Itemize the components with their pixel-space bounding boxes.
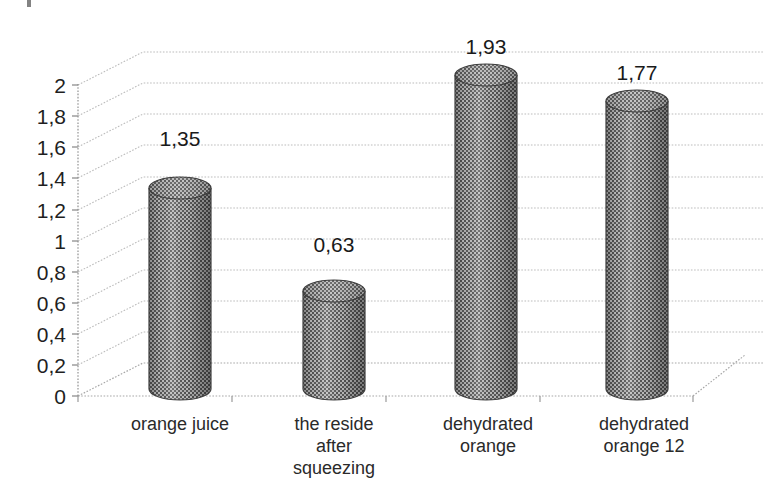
value-axis (72, 84, 78, 397)
ytick-label-1-8: 1,8 (8, 106, 66, 127)
category-label-dehydrated-orange: dehydrated orange (403, 413, 573, 457)
ytick-label-0-2: 0,2 (8, 355, 66, 376)
value-label-reside: 0,63 (294, 234, 374, 255)
value-label-orange-juice: 1,35 (140, 128, 220, 149)
bar-reside-after-squeezing[interactable] (303, 280, 365, 400)
ytick-label-0: 0 (8, 386, 66, 407)
value-label-dehydrated-orange-12: 1,77 (597, 62, 677, 83)
category-label-orange-juice: orange juice (95, 413, 265, 435)
category-label-reside: the reside after squeezing (249, 413, 419, 479)
bar-dehydrated-orange-12[interactable] (606, 90, 668, 400)
ytick-label-1-4: 1,4 (8, 168, 66, 189)
ytick-label-1-2: 1,2 (8, 200, 66, 221)
value-label-dehydrated-orange: 1,93 (446, 36, 526, 57)
bar-dehydrated-orange[interactable] (455, 64, 517, 400)
ytick-label-1-6: 1,6 (8, 137, 66, 158)
ytick-label-1: 1 (8, 231, 66, 252)
bar-orange-juice[interactable] (149, 177, 211, 400)
ytick-label-0-8: 0,8 (8, 262, 66, 283)
ytick-label-2: 2 (8, 75, 66, 96)
bar-chart: 2 1,8 1,6 1,4 1,2 1 0,8 0,6 0,4 0,2 0 1,… (0, 0, 763, 498)
ytick-label-0-6: 0,6 (8, 293, 66, 314)
category-label-dehydrated-orange-12: dehydrated orange 12 (554, 413, 734, 457)
ytick-label-0-4: 0,4 (8, 324, 66, 345)
